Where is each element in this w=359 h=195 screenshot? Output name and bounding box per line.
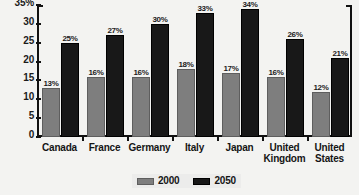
x-axis-category-label: UnitedStates (307, 142, 352, 164)
y-axis-tick-label: 30 (23, 17, 34, 27)
x-axis-category-label: UnitedKingdom (262, 142, 307, 164)
x-axis-category-label-line: United (262, 142, 307, 153)
x-axis-category-label-line: United (307, 142, 352, 153)
y-axis-tick-label: 10 (23, 92, 34, 102)
x-axis-category-label-line: Kingdom (262, 153, 307, 164)
x-axis-category-label-line: Italy (172, 142, 217, 153)
chart-legend: 20002050 (132, 174, 241, 188)
x-axis-category-label: Canada (37, 142, 82, 153)
x-axis-tick-mark (127, 137, 129, 141)
x-axis-category-label-line: States (307, 153, 352, 164)
x-axis-tick-mark (307, 137, 309, 141)
y-axis-tick-label: 25 (23, 36, 34, 46)
x-axis-category-label: Italy (172, 142, 217, 153)
y-axis-tick-label: 0 (29, 130, 34, 140)
x-axis-category-label-line: Japan (217, 142, 262, 153)
plot-area (37, 5, 352, 137)
x-axis-tick-mark (217, 137, 219, 141)
y-axis-tick-label: 5 (29, 111, 34, 121)
x-axis-category-label: Japan (217, 142, 262, 153)
x-axis-tick-mark (262, 137, 264, 141)
legend-item[interactable]: 2050 (193, 176, 235, 186)
legend-swatch-icon (193, 178, 210, 185)
bar-chart: 35%302520151050 CanadaFranceGermanyItaly… (0, 0, 359, 195)
x-axis-tick-mark (172, 137, 174, 141)
x-axis-category-label: France (82, 142, 127, 153)
legend-label: 2000 (158, 176, 179, 186)
y-axis-tick-label: 35% (15, 0, 34, 8)
y-axis-tick-label: 15 (23, 73, 34, 83)
x-axis-category-label-line: France (82, 142, 127, 153)
x-axis-category-label-line: Germany (127, 142, 172, 153)
x-axis-tick-mark (82, 137, 84, 141)
x-axis-category-label-line: Canada (37, 142, 82, 153)
legend-item[interactable]: 2000 (137, 176, 179, 186)
legend-swatch-icon (137, 178, 154, 185)
y-axis-tick-label: 20 (23, 55, 34, 65)
x-axis-category-label: Germany (127, 142, 172, 153)
legend-label: 2050 (214, 176, 235, 186)
